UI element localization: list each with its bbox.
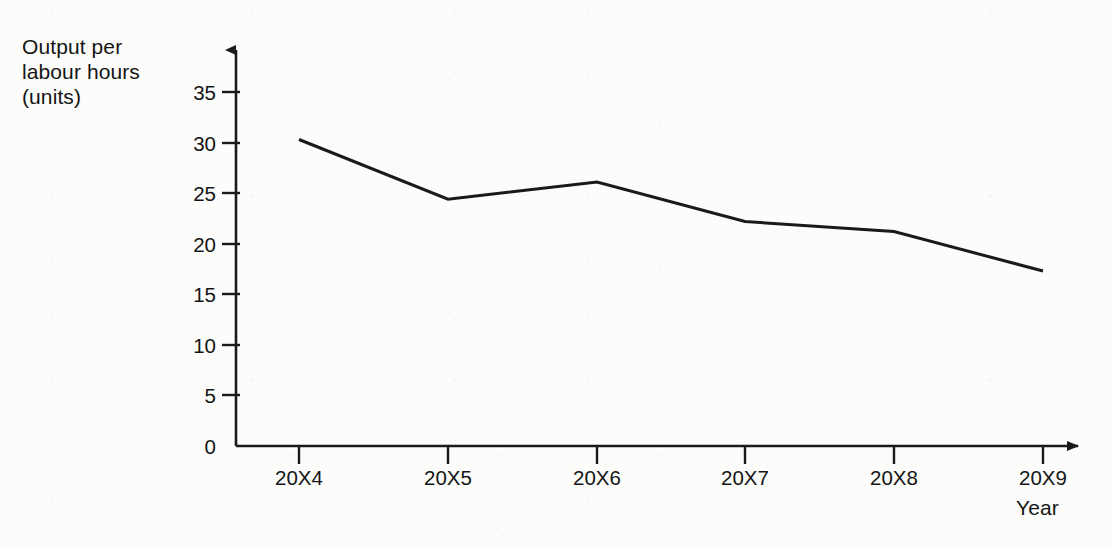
x-tick-label-20X4: 20X4 (254, 466, 344, 490)
data-series-line (299, 140, 1043, 272)
y-tick-label-25: 25 (172, 182, 216, 206)
x-tick-label-20X8: 20X8 (849, 466, 939, 490)
x-tick-label-20X6: 20X6 (552, 466, 642, 490)
x-tick-label-20X7: 20X7 (700, 466, 790, 490)
y-tick-label-0: 0 (172, 435, 216, 459)
y-tick-label-35: 35 (172, 81, 216, 105)
y-tick-label-20: 20 (172, 233, 216, 257)
y-tick-label-30: 30 (172, 132, 216, 156)
x-tick-label-20X5: 20X5 (403, 466, 493, 490)
y-tick-label-10: 10 (172, 334, 216, 358)
y-tick-label-15: 15 (172, 283, 216, 307)
line-chart: Output per labour hours (units) Year 35 … (0, 0, 1112, 546)
y-tick-label-5: 5 (172, 384, 216, 408)
x-axis-title: Year (1016, 495, 1059, 520)
x-axis-ticks (299, 446, 1043, 464)
x-tick-label-20X9: 20X9 (998, 466, 1088, 490)
